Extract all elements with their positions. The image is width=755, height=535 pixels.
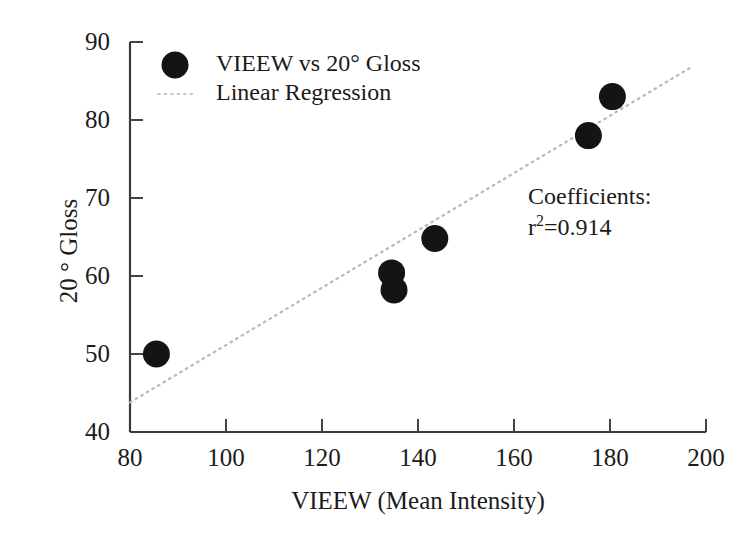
y-tick-label: 90 [46,28,110,56]
legend-symbols [158,52,196,95]
x-axis-title: VIEEW (Mean Intensity) [291,487,545,515]
x-axis-ticks [130,419,706,432]
x-tick-label: 180 [591,444,629,472]
x-tick-label: 140 [399,444,437,472]
x-tick-label: 120 [303,444,341,472]
data-point [575,122,602,149]
y-axis-ticks [130,42,143,432]
r-value: =0.914 [544,214,612,240]
r-symbol: r [528,214,536,240]
legend-marker-icon [162,52,189,79]
x-tick-label: 200 [687,444,725,472]
legend-item-fit-label: Linear Regression [216,79,391,106]
y-tick-label: 80 [46,106,110,134]
legend-item-series-label: VIEEW vs 20° Gloss [216,50,420,77]
x-tick-label: 100 [207,444,245,472]
y-tick-label: 40 [46,418,110,446]
x-tick-label: 80 [118,444,143,472]
scatter-plot-figure: 40 50 60 70 80 90 80 100 120 140 160 180… [0,0,755,535]
data-point [143,341,170,368]
data-point [381,277,408,304]
y-axis-title: 20 ° Gloss [55,141,83,361]
data-point [421,225,448,252]
data-point [599,83,626,110]
x-tick-label: 160 [495,444,533,472]
coefficients-title: Coefficients: [528,183,652,210]
r-superscript: 2 [536,212,544,229]
r-squared-annotation: r2=0.914 [528,212,612,241]
